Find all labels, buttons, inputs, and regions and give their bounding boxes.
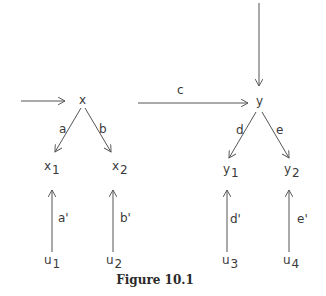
edge-label-a: a (59, 123, 66, 135)
node-x2-label: x (112, 159, 119, 173)
node-y-label: y (256, 94, 263, 108)
node-y2-label: y (284, 162, 291, 176)
node-u1-label: u (44, 253, 52, 267)
edge-label-e-prime: e' (297, 213, 308, 225)
node-u1-sub: 1 (53, 257, 61, 271)
edge-label-b-prime: b' (120, 212, 131, 224)
node-u4-label: u (283, 253, 291, 267)
node-u3: u3 (222, 254, 238, 266)
node-u3-label: u (222, 253, 230, 267)
node-u2-sub: 2 (115, 257, 123, 271)
node-x2: x2 (112, 160, 128, 172)
node-y1: y1 (223, 163, 239, 175)
node-x2-sub: 2 (120, 163, 128, 177)
node-y: y (256, 95, 263, 107)
node-u4: u4 (283, 254, 299, 266)
edge-label-b: b (99, 123, 107, 135)
edge-label-a-prime: a' (58, 212, 69, 224)
node-u2: u2 (106, 254, 122, 266)
node-y2-sub: 2 (292, 166, 300, 180)
edge-label-e: e (276, 124, 283, 136)
arrow-x-to-x2 (85, 108, 111, 152)
figure-caption: Figure 10.1 (0, 273, 310, 287)
edge-label-d-prime: d' (230, 213, 241, 225)
path-diagram: x x1 x2 y y1 y2 u1 u2 u3 u4 a b c d e a'… (0, 0, 326, 296)
node-u4-sub: 4 (292, 257, 300, 271)
diagram-arrows (0, 0, 326, 296)
node-u2-label: u (106, 253, 114, 267)
node-x1-label: x (44, 159, 51, 173)
node-x1: x1 (44, 160, 60, 172)
edge-label-d: d (236, 124, 244, 136)
node-y1-sub: 1 (231, 166, 239, 180)
node-y2: y2 (284, 163, 300, 175)
edge-label-c: c (177, 84, 184, 96)
node-u3-sub: 3 (231, 257, 239, 271)
node-u1: u1 (44, 254, 60, 266)
node-x: x (79, 94, 86, 106)
node-x-label: x (79, 93, 86, 107)
node-y1-label: y (223, 162, 230, 176)
node-x1-sub: 1 (52, 163, 60, 177)
